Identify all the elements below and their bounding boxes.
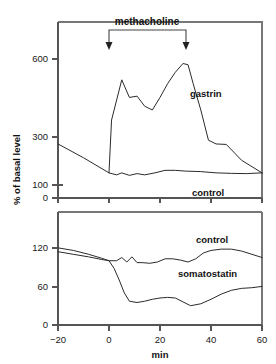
bottom-ylabel-0: 0 bbox=[43, 319, 48, 330]
bottom-panel: 120 60 0 −20 0 20 40 60 control somatost… bbox=[32, 212, 267, 360]
xlabel-0: 0 bbox=[106, 334, 111, 345]
top-control-label: control bbox=[192, 187, 224, 198]
gastrin-curve bbox=[109, 63, 262, 172]
methacholine-annotation: methacholine bbox=[106, 16, 190, 50]
methacholine-arrow-right-head bbox=[183, 42, 190, 50]
xlabel-20: 20 bbox=[155, 334, 166, 345]
top-ylabel-300: 300 bbox=[32, 131, 48, 142]
xlabel-40: 40 bbox=[206, 334, 217, 345]
bottom-control-label: control bbox=[196, 234, 228, 245]
y-axis-title: % of basal level bbox=[11, 134, 22, 205]
methacholine-arrow-left-head bbox=[106, 42, 113, 50]
bottom-control-curve bbox=[58, 248, 262, 263]
gastrin-label: gastrin bbox=[190, 88, 222, 99]
bottom-ylabel-120: 120 bbox=[32, 242, 48, 253]
top-ylabel-100: 100 bbox=[32, 179, 48, 190]
somatostatin-label: somatostatin bbox=[178, 268, 237, 279]
top-control-curve bbox=[58, 144, 262, 175]
methacholine-label: methacholine bbox=[115, 16, 180, 27]
top-ylabel-0: 0 bbox=[43, 192, 48, 203]
dual-panel-line-chart: 600 300 100 0 gastrin control bbox=[0, 0, 276, 364]
x-axis-title: min bbox=[152, 349, 169, 360]
figure-container: 600 300 100 0 gastrin control bbox=[0, 0, 276, 364]
xlabel-minus-20: −20 bbox=[50, 334, 66, 345]
xlabel-60: 60 bbox=[257, 334, 268, 345]
top-ylabel-600: 600 bbox=[32, 53, 48, 64]
bottom-ylabel-60: 60 bbox=[37, 281, 48, 292]
methacholine-bracket bbox=[109, 30, 186, 38]
top-panel: 600 300 100 0 gastrin control bbox=[32, 16, 262, 203]
